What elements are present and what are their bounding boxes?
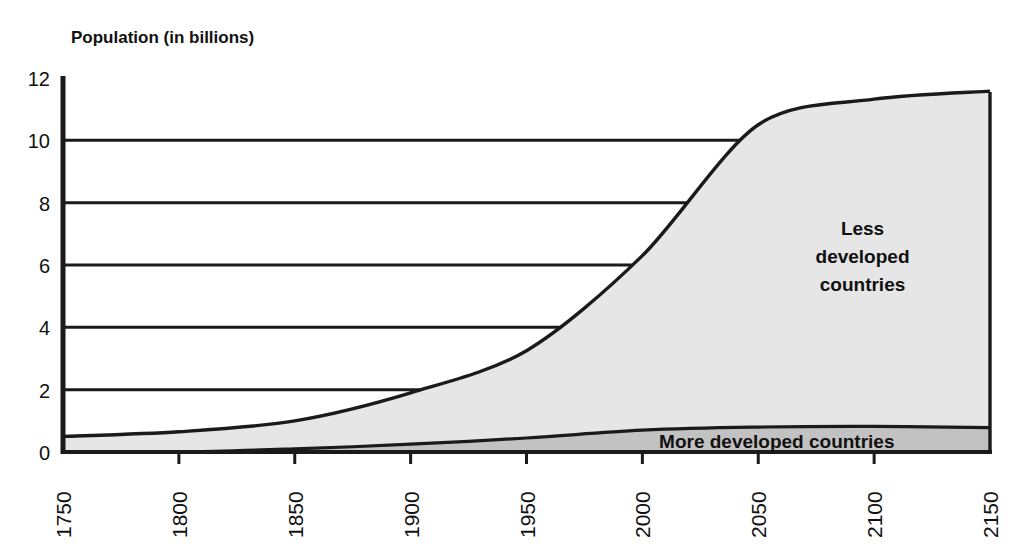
x-tick-label-1850: 1850 bbox=[284, 491, 307, 538]
chart-canvas: Population (in billions) 024681012 17501… bbox=[0, 0, 1036, 560]
x-tick-label-1750: 1750 bbox=[52, 491, 75, 538]
y-tick-label-12: 12 bbox=[28, 68, 50, 90]
more-developed-label: More developed countries bbox=[659, 431, 894, 452]
y-tick-label-4: 4 bbox=[39, 317, 50, 339]
less-developed-label-line-3: countries bbox=[820, 274, 906, 295]
chart-axis-title: Population (in billions) bbox=[71, 28, 254, 47]
y-tick-label-6: 6 bbox=[39, 255, 50, 277]
x-tick-label-2150: 2150 bbox=[979, 491, 1002, 538]
x-tick-label-1900: 1900 bbox=[400, 491, 423, 538]
more-developed-label-line-1: More developed countries bbox=[659, 431, 894, 452]
x-tick-label-1800: 1800 bbox=[168, 491, 191, 538]
x-tick-label-1950: 1950 bbox=[516, 491, 539, 538]
y-tick-label-2: 2 bbox=[39, 380, 50, 402]
population-area-chart: Population (in billions) 024681012 17501… bbox=[0, 0, 1036, 560]
x-tick-label-2000: 2000 bbox=[631, 491, 654, 538]
y-tick-label-10: 10 bbox=[28, 130, 50, 152]
x-tick-label-2100: 2100 bbox=[863, 491, 886, 538]
less-developed-label-line-1: Less bbox=[841, 218, 884, 239]
y-tick-label-8: 8 bbox=[39, 193, 50, 215]
less-developed-label-line-2: developed bbox=[816, 246, 910, 267]
y-tick-label-0: 0 bbox=[39, 442, 50, 464]
x-tick-label-2050: 2050 bbox=[747, 491, 770, 538]
